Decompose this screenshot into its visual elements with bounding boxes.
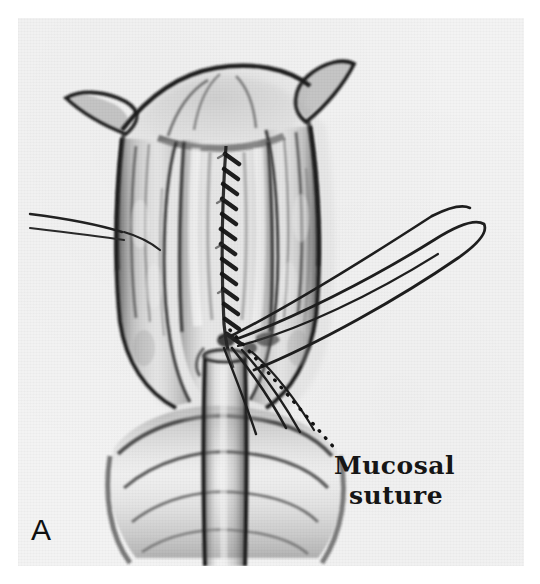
figure-root: Mucosal suture A xyxy=(0,0,540,584)
surgical-illustration-artwork xyxy=(18,18,524,566)
annotation-label-mucosal: Mucosal xyxy=(334,451,455,480)
annotation-label-suture: suture xyxy=(349,481,443,510)
catheter-tube xyxy=(203,350,248,566)
panel-letter-label: A xyxy=(31,513,51,547)
scanned-illustration-plate xyxy=(18,18,524,566)
